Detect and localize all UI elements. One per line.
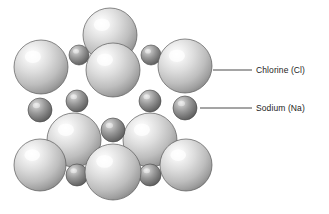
- sphere-highlight: [70, 168, 77, 173]
- sphere-highlight: [94, 19, 110, 31]
- sphere-highlight: [143, 168, 150, 173]
- sphere-highlight: [96, 155, 113, 168]
- sphere-highlight: [143, 94, 150, 99]
- nacl-lattice-diagram: Chlorine (Cl) Sodium (Na): [0, 0, 329, 214]
- sodium-atom-sphere: [139, 90, 161, 112]
- sphere-highlight: [33, 103, 40, 109]
- label-chlorine: Chlorine (Cl): [256, 65, 305, 75]
- sphere-highlight: [134, 124, 150, 136]
- chlorine-atom-sphere: [85, 144, 141, 200]
- sphere-highlight: [178, 101, 185, 107]
- sphere-highlight: [145, 49, 151, 54]
- chlorine-atom-sphere: [86, 43, 140, 97]
- sphere-highlight: [170, 149, 186, 161]
- sphere-highlight: [169, 50, 185, 62]
- sodium-atom-sphere: [66, 90, 88, 112]
- sphere-highlight: [73, 49, 79, 54]
- chlorine-atom-sphere: [158, 39, 212, 93]
- sphere-highlight: [70, 94, 77, 99]
- sodium-atom-sphere: [101, 118, 125, 142]
- sodium-atom-sphere: [66, 164, 88, 186]
- sodium-atom-sphere: [28, 98, 52, 122]
- label-sodium: Sodium (Na): [256, 103, 305, 113]
- sphere-highlight: [58, 124, 74, 136]
- sphere-highlight: [25, 51, 41, 63]
- chlorine-atom-sphere: [14, 40, 68, 94]
- sphere-highlight: [97, 54, 113, 66]
- sodium-atom-sphere: [173, 96, 197, 120]
- sodium-atom-sphere: [139, 164, 161, 186]
- spheres-layer: [14, 8, 212, 200]
- chlorine-atom-sphere: [160, 139, 212, 191]
- sphere-highlight: [24, 149, 40, 161]
- sphere-highlight: [106, 123, 113, 129]
- chlorine-atom-sphere: [14, 139, 66, 191]
